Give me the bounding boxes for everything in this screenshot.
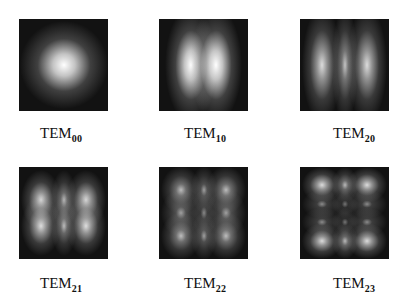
mode-label-tem21: TEM21 xyxy=(40,275,82,294)
mode-label-tem10: TEM10 xyxy=(184,125,226,144)
mode-image-tem21 xyxy=(19,167,108,259)
mode-label-subscript: 20 xyxy=(365,133,376,144)
mode-image-tem20 xyxy=(300,19,389,111)
mode-label-tem22: TEM22 xyxy=(184,275,226,294)
intensity-lobe xyxy=(347,19,387,111)
intensity-lobe xyxy=(206,212,246,259)
mode-label-subscript: 22 xyxy=(216,283,227,294)
mode-label-main: TEM xyxy=(40,275,72,291)
mode-label-main: TEM xyxy=(333,275,365,291)
mode-label-subscript: 10 xyxy=(216,133,227,144)
mode-image-tem00 xyxy=(19,19,108,111)
intensity-lobe xyxy=(347,223,387,259)
mode-image-tem10 xyxy=(159,19,248,111)
mode-label-main: TEM xyxy=(40,125,72,141)
mode-label-main: TEM xyxy=(184,125,216,141)
mode-image-tem23 xyxy=(300,167,389,259)
intensity-lobe xyxy=(66,196,106,256)
mode-label-tem23: TEM23 xyxy=(333,275,375,294)
mode-label-tem20: TEM20 xyxy=(333,125,375,144)
mode-label-tem00: TEM00 xyxy=(40,125,82,144)
mode-label-main: TEM xyxy=(184,275,216,291)
mode-image-tem22 xyxy=(159,167,248,259)
intensity-lobe xyxy=(20,21,108,109)
mode-label-main: TEM xyxy=(333,125,365,141)
mode-label-subscript: 00 xyxy=(72,133,83,144)
mode-label-subscript: 23 xyxy=(365,283,376,294)
mode-label-subscript: 21 xyxy=(72,283,83,294)
intensity-lobe xyxy=(190,19,242,111)
